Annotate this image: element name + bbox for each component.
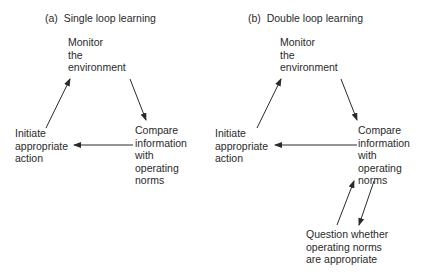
arrow-question-to-compare-b <box>337 181 354 225</box>
arrow-initiate-to-monitor-a <box>46 79 70 128</box>
arrow-monitor-to-compare-b <box>341 79 357 120</box>
arrow-initiate-to-monitor-b <box>257 79 281 128</box>
panel-a-title: (a) Single loop learning <box>45 12 156 24</box>
node-question-b: Question whether operating norms are app… <box>306 228 388 266</box>
node-initiate-b: Initiate appropriate action <box>215 127 268 165</box>
panel-b-title: (b) Double loop learning <box>248 12 363 24</box>
node-monitor-b: Monitor the environment <box>280 36 338 74</box>
node-compare-b: Compare information with operating norms <box>358 124 410 187</box>
arrow-compare-to-question-b <box>359 181 374 225</box>
node-initiate-a: Initiate appropriate action <box>15 127 68 165</box>
node-compare-a: Compare information with operating norms <box>135 124 187 187</box>
arrow-monitor-to-compare-a <box>130 79 146 120</box>
node-monitor-a: Monitor the environment <box>68 36 126 74</box>
